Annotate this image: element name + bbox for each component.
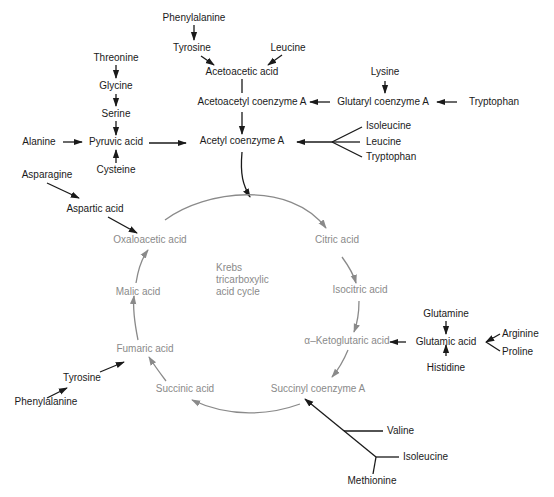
arc-ketoglutaric-succinyl: [332, 350, 348, 377]
node-pyruvic-acid: Pyruvic acid: [89, 136, 143, 148]
node-leucine-top: Leucine: [270, 42, 305, 54]
node-acetoacetic-acid: Acetoacetic acid: [206, 66, 279, 78]
center-label-line-1: Krebs: [216, 262, 242, 273]
arrow-leu-acetoacetic: [268, 55, 282, 65]
arrow-asn-asp: [47, 183, 79, 198]
node-lysine: Lysine: [371, 66, 400, 78]
branch-tryptophan: [332, 142, 362, 157]
node-leucine-acetyl: Leucine: [366, 136, 401, 148]
arrow-tyr-acetoacetic: [201, 56, 214, 65]
branch-arginine: [486, 334, 500, 342]
arc-malic-oxaloacetic: [136, 250, 148, 283]
node-isoleucine-bottom: Isoleucine: [403, 451, 448, 463]
node-aspartic-acid: Aspartic acid: [66, 203, 123, 215]
node-tryptophan-glutaryl: Tryptophan: [469, 96, 519, 108]
branch-methionine: [373, 457, 376, 474]
node-fumaric-acid: Fumaric acid: [116, 343, 173, 355]
node-succinyl-coa: Succinyl coenzyme A: [271, 383, 366, 395]
node-methionine: Methionine: [348, 475, 397, 487]
arc-oxaloacetic-citric: [165, 195, 326, 228]
node-asparagine: Asparagine: [22, 169, 73, 181]
node-acetyl-coa: Acetyl coenzyme A: [200, 135, 284, 147]
arc-fumaric-malic: [134, 296, 138, 340]
node-tyrosine-top: Tyrosine: [173, 42, 211, 54]
node-serine: Serine: [102, 108, 131, 120]
node-histidine: Histidine: [427, 362, 465, 374]
center-label: Krebs tricarboxylic acid cycle: [216, 262, 269, 298]
arrow-asp-oxaloacetic: [108, 217, 137, 233]
node-proline: Proline: [502, 346, 533, 358]
arrow-tyr-fumaric: [100, 362, 124, 372]
node-valine: Valine: [387, 425, 414, 437]
arc-citric-isocitric: [342, 257, 356, 283]
arrow-branch-succinyl: [305, 399, 376, 457]
feeder-arrows: [47, 25, 500, 474]
branch-isoleucine: [332, 127, 362, 142]
node-glutamic-acid: Glutamic acid: [416, 336, 477, 348]
node-acetoacetyl-coa: Acetoacetyl coenzyme A: [198, 96, 307, 108]
arc-succinyl-succinic: [192, 400, 300, 413]
node-glutamine: Glutamine: [423, 308, 469, 320]
node-cysteine: Cysteine: [97, 164, 136, 176]
node-threonine: Threonine: [93, 52, 138, 64]
node-alanine: Alanine: [22, 136, 55, 148]
node-arginine: Arginine: [502, 328, 539, 340]
node-oxaloacetic-acid: Oxaloacetic acid: [113, 234, 186, 246]
node-isoleucine-acetyl: Isoleucine: [366, 120, 411, 132]
node-citric-acid: Citric acid: [315, 234, 359, 246]
arrow-acetyl-cycle: [241, 152, 250, 197]
node-tryptophan-acetyl: Tryptophan: [366, 151, 416, 163]
node-phenylalanine-bottom: Phenylalanine: [15, 396, 78, 408]
node-phenylalanine-top: Phenylalanine: [163, 12, 226, 24]
branch-proline: [486, 342, 500, 351]
arc-succinic-fumaric: [149, 357, 166, 381]
arc-isocitric-ketoglutaric: [354, 301, 359, 332]
node-malic-acid: Malic acid: [116, 286, 160, 298]
cycle-arrows: [134, 195, 359, 413]
node-tyrosine-bottom: Tyrosine: [63, 372, 101, 384]
center-label-line-2: tricarboxylic: [216, 274, 269, 285]
node-ketoglutaric-acid: α–Ketoglutaric acid: [304, 335, 389, 347]
node-succinic-acid: Succinic acid: [156, 383, 214, 395]
node-glycine: Glycine: [99, 80, 132, 92]
node-glutaryl-coa: Glutaryl coenzyme A: [337, 96, 429, 108]
node-isocitric-acid: Isocitric acid: [332, 284, 387, 296]
center-label-line-3: acid cycle: [216, 286, 260, 297]
